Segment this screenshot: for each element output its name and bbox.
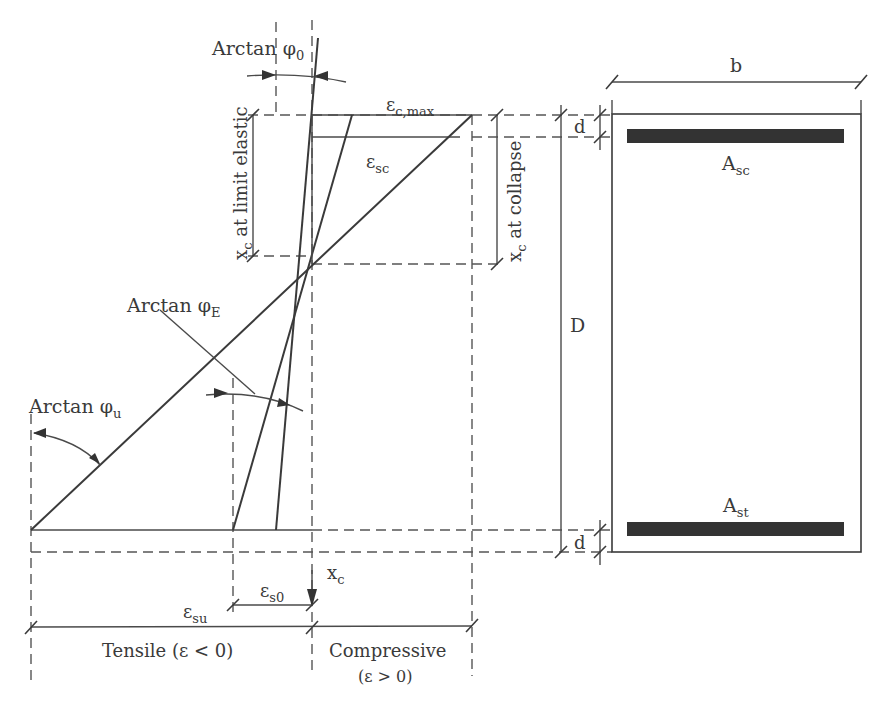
eps-su-label: εsu xyxy=(183,601,207,626)
arrowhead-icon xyxy=(33,428,46,438)
compression-rebar xyxy=(627,129,844,143)
arctan-phi0-label: Arctan φ0 xyxy=(211,37,304,63)
construction-lines xyxy=(31,20,612,680)
xc-collapse-label: xc at collapse xyxy=(504,141,529,262)
compressive-note-label: (ε > 0) xyxy=(358,667,413,686)
strain-axis-dimension xyxy=(31,626,472,627)
arctan-phiE-label: Arctan φE xyxy=(126,294,221,320)
angle-markers xyxy=(33,70,346,607)
tension-rebar xyxy=(627,522,844,536)
strain-diagram-figure: Arctan φ0 εc,max εsc Arctan φE Arctan φu… xyxy=(0,0,886,706)
arrowhead-icon xyxy=(262,70,276,80)
arrowhead-icon xyxy=(89,453,100,464)
xc-limit-elastic-label: xc at limit elastic xyxy=(230,106,255,260)
cross-section xyxy=(555,75,867,565)
depth-label: D xyxy=(570,314,585,336)
arrowhead-icon xyxy=(214,388,228,398)
tensile-region-label: Tensile (ε < 0) xyxy=(102,640,233,661)
eps-sc-label: εsc xyxy=(366,151,389,176)
section-outline xyxy=(612,114,861,552)
top-cover-label: d xyxy=(574,116,586,137)
phiE-leader xyxy=(160,310,255,394)
eps-s0-label: εs0 xyxy=(260,580,284,605)
asc-label: Asc xyxy=(721,152,750,178)
bottom-cover-label: d xyxy=(574,532,586,553)
arctan-phiu-label: Arctan φu xyxy=(28,395,121,421)
xc-axis-label: xc xyxy=(327,562,344,587)
width-label: b xyxy=(730,54,742,76)
ast-label: Ast xyxy=(722,494,749,520)
phiE-arc xyxy=(206,394,303,411)
phi0-arc xyxy=(247,75,346,82)
phiu-arc xyxy=(34,433,100,465)
arrowhead-icon xyxy=(314,71,328,81)
dimension-lines xyxy=(25,109,503,634)
compressive-region-label: Compressive xyxy=(329,640,447,661)
